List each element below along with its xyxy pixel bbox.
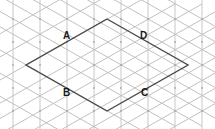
vertex-label-a: A (63, 31, 70, 41)
diagram-canvas: A D B C (0, 0, 215, 129)
rhombus-outline (26, 19, 188, 111)
vertex-label-c: C (141, 88, 148, 98)
vertex-label-b: B (63, 88, 70, 98)
geometry-figure (0, 0, 215, 129)
vertex-label-d: D (140, 31, 147, 41)
